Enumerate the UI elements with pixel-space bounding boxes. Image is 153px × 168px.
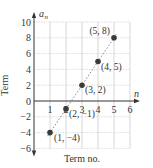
y-tick-label: −4 — [20, 127, 31, 138]
data-point-label: (2, −1) — [69, 109, 95, 120]
x-axis-title: Term no. — [64, 153, 100, 164]
y-axis-variable: a — [39, 8, 44, 19]
y-axis-variable-subscript: n — [45, 13, 49, 21]
x-axis-arrow-icon — [134, 99, 140, 103]
y-tick-label: 8 — [26, 32, 31, 43]
x-tick-label: 4 — [96, 104, 101, 115]
data-point-label: (5, 8) — [89, 26, 110, 37]
x-tick-label: 6 — [128, 104, 133, 115]
y-axis-title: Term — [0, 75, 10, 96]
x-tick-label: 1 — [48, 104, 53, 115]
data-point — [47, 130, 53, 136]
y-tick-label: 2 — [26, 80, 31, 91]
x-tick-label: 5 — [112, 104, 117, 115]
data-point-label: (3, 2) — [85, 85, 106, 96]
data-point — [63, 106, 69, 112]
y-tick-label: −6 — [20, 143, 31, 154]
y-tick-label: 4 — [26, 64, 31, 75]
y-tick-label: 0 — [26, 96, 31, 107]
chart-container: −6−4−20246810123456annTerm no.Term(1, −4… — [0, 0, 153, 168]
y-axis-arrow-down-icon — [32, 150, 36, 156]
data-point-label: (4, 5) — [101, 62, 122, 73]
x-axis-variable: n — [134, 88, 139, 99]
y-axis-arrow-up-icon — [32, 12, 36, 18]
y-tick-label: −2 — [20, 111, 31, 122]
data-point — [111, 35, 117, 41]
y-tick-label: 10 — [21, 17, 31, 28]
data-point — [79, 82, 85, 88]
scatter-plot: −6−4−20246810123456annTerm no.Term(1, −4… — [0, 0, 153, 168]
data-point — [95, 59, 101, 65]
y-tick-label: 6 — [26, 48, 31, 59]
data-point-label: (1, −4) — [54, 133, 80, 144]
